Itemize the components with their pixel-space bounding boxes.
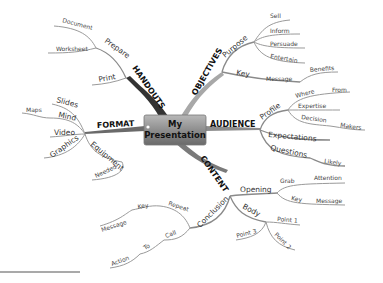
handouts-worksheet[interactable]: Worksheet [56, 45, 89, 52]
content-body[interactable]: Body [241, 202, 262, 219]
content-action[interactable]: Action [110, 254, 130, 267]
audience-expertise[interactable]: Expertise [298, 102, 326, 110]
mind-map-canvas: My Presentation HANDOUTS Prepare Documen… [0, 0, 383, 283]
objectives-persuade[interactable]: Persuade [270, 40, 298, 47]
content-grab[interactable]: Grab [280, 177, 295, 184]
audience-expectations[interactable]: Expectations [268, 130, 317, 143]
format-mind[interactable]: Mind [58, 110, 78, 123]
objectives-entertain[interactable]: Entertain [270, 52, 299, 64]
objectives-purpose[interactable]: Purpose [221, 33, 250, 59]
format-needed[interactable]: Needed [93, 163, 117, 179]
content-conclusion-key[interactable]: Key [137, 201, 150, 211]
audience-makers[interactable]: Makers [340, 121, 362, 131]
content-label[interactable]: CONTENT [198, 154, 230, 194]
audience-from[interactable]: From [332, 86, 347, 93]
format-slides[interactable]: Slides [55, 95, 79, 109]
objectives-message[interactable]: Message [266, 75, 293, 83]
handouts-prepare[interactable]: Prepare [103, 36, 132, 60]
content-conclusion[interactable]: Conclusion [195, 194, 230, 229]
content-opening[interactable]: Opening [240, 185, 272, 194]
content-message[interactable]: Message [316, 197, 343, 205]
objectives-label[interactable]: OBJECTIVES [190, 46, 224, 97]
center-node[interactable]: My Presentation [144, 115, 206, 145]
objectives-benefits[interactable]: Benefits [309, 64, 334, 73]
content-call[interactable]: Call [164, 228, 177, 239]
content-attention[interactable]: Attention [314, 174, 342, 181]
center-title-line1: My [168, 119, 182, 129]
audience-decision[interactable]: Decision [301, 113, 327, 124]
center-title-line2: Presentation [144, 130, 206, 140]
objectives-sell[interactable]: Sell [270, 12, 281, 19]
objectives-inform[interactable]: Inform [270, 27, 290, 34]
handouts-document[interactable]: Document [62, 16, 94, 31]
objectives-key[interactable]: Key [236, 68, 251, 79]
audience-profile[interactable]: Profile [258, 101, 283, 122]
audience-label[interactable]: AUDIENCE [210, 120, 256, 129]
audience-questions[interactable]: Questions [270, 143, 309, 160]
format-maps[interactable]: Maps [26, 106, 42, 114]
audience-where[interactable]: Where [294, 87, 315, 99]
content-point3[interactable]: Point 3 [235, 227, 257, 239]
content-repeat[interactable]: Repeat [167, 199, 190, 213]
